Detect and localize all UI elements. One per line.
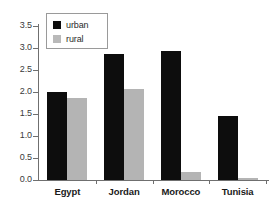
x-axis-line [39,180,269,181]
y-tick-mark [33,114,38,115]
y-tick-label: 2.5 [0,65,32,74]
x-tick-mark [96,180,97,184]
bar-urban-morocco [161,51,181,180]
bar-urban-tunisia [218,116,238,180]
y-tick-label: 1.5 [0,109,32,118]
legend-item-urban: urban [53,18,107,32]
y-tick-label: 1.0 [0,131,32,140]
legend-item-rural: rural [53,32,107,46]
bar-urban-egypt [47,92,67,180]
x-category-label-jordan: Jordan [96,186,153,197]
x-tick-mark [153,180,154,184]
y-tick-mark [33,70,38,71]
y-tick-mark [33,136,38,137]
bar-urban-jordan [104,54,124,180]
bar-rural-egypt [67,98,87,180]
x-tick-mark [266,180,267,184]
y-tick-mark [33,92,38,93]
bar-chart: 0.00.51.01.52.02.53.03.5 EgyptJordanMoro… [0,0,278,206]
x-category-label-egypt: Egypt [39,186,96,197]
y-tick-label: 0.0 [0,175,32,184]
y-tick-label: 0.5 [0,153,32,162]
y-tick-label: 2.0 [0,87,32,96]
x-tick-mark [209,180,210,184]
y-tick-label: 3.5 [0,21,32,30]
legend-swatch-urban-icon [53,21,61,29]
x-category-label-morocco: Morocco [153,186,210,197]
y-tick-mark [33,158,38,159]
y-tick-mark [33,180,38,181]
bar-rural-jordan [124,89,144,180]
x-category-label-tunisia: Tunisia [209,186,266,197]
y-tick-mark [33,26,38,27]
bar-rural-tunisia [238,178,258,180]
legend: urban rural [46,13,108,49]
legend-swatch-rural-icon [53,35,61,43]
legend-label-rural: rural [66,35,84,44]
y-tick-mark [33,48,38,49]
bar-rural-morocco [181,172,201,180]
y-tick-label: 3.0 [0,43,32,52]
plot-area [39,26,266,180]
legend-label-urban: urban [66,21,89,30]
